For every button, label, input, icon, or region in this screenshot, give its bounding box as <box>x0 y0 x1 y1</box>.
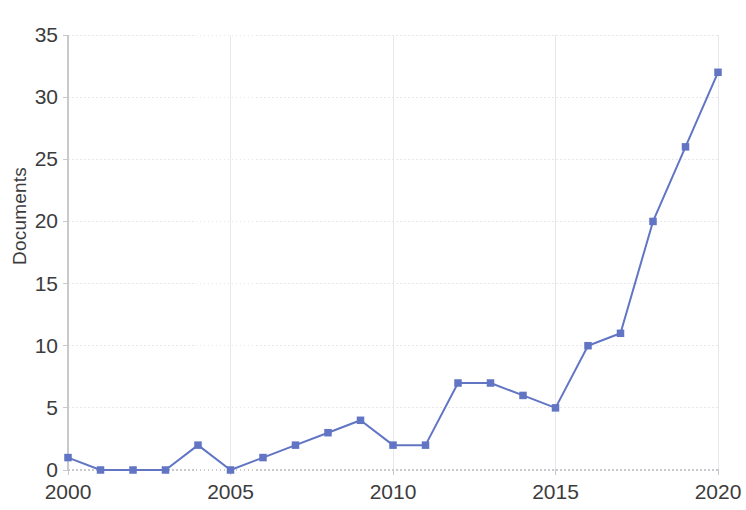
data-point-marker <box>714 69 722 77</box>
data-point-marker <box>97 466 105 474</box>
data-point-marker <box>259 454 267 462</box>
data-point-marker <box>552 404 560 412</box>
data-point-marker <box>649 218 657 226</box>
data-point-marker <box>227 466 235 474</box>
tick-marks <box>63 35 718 475</box>
data-point-marker <box>162 466 170 474</box>
data-point-marker <box>357 417 365 425</box>
data-point-marker <box>617 330 625 338</box>
grid-lines <box>68 35 718 470</box>
data-point-marker <box>682 143 690 151</box>
data-point-marker <box>389 441 397 449</box>
data-point-marker <box>64 454 72 462</box>
data-point-marker <box>194 441 202 449</box>
data-point-marker <box>422 441 430 449</box>
data-point-marker <box>454 379 462 387</box>
data-point-marker <box>519 392 527 400</box>
data-point-marker <box>584 342 592 350</box>
data-point-marker <box>324 429 332 437</box>
data-point-marker <box>292 441 300 449</box>
data-point-marker <box>129 466 137 474</box>
data-point-marker <box>487 379 495 387</box>
